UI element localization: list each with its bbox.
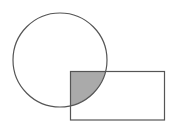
circle-shape [13,13,107,107]
venn-diagram [0,0,172,129]
